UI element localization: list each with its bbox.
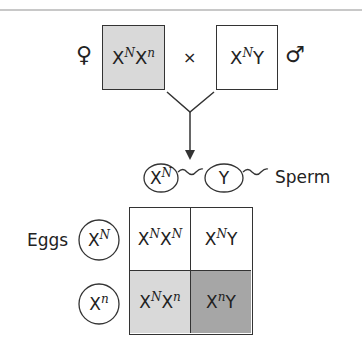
egg-xn-lower: Xn xyxy=(79,290,119,318)
sperm-y: Y xyxy=(205,164,243,192)
punnett-cell-4: XnY xyxy=(191,271,251,333)
eggs-label: Eggs xyxy=(27,230,68,250)
punnett-cell-1: XNXN xyxy=(130,208,191,271)
punnett-cell-3: XNXn xyxy=(130,271,191,333)
egg-xn-upper: XN xyxy=(79,226,119,254)
punnett-square: XNXN XNY XNXn XnY xyxy=(129,207,253,335)
sperm-xn: XN xyxy=(144,164,178,192)
punnett-cell-2: XNY xyxy=(191,208,251,271)
sperm-label: Sperm xyxy=(275,167,330,187)
